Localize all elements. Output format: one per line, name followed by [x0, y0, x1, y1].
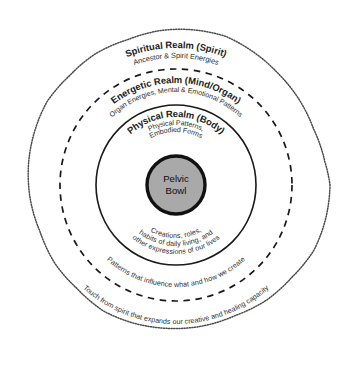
energetic-lower-caption: Patterns that influence what and how we … — [105, 255, 246, 289]
diagram-container: Pelvic Bowl Spiritual Realm (Spirit) Anc… — [0, 0, 352, 370]
energetic-lower-caption-text: Patterns that influence what and how we … — [105, 255, 246, 289]
core-label-line2: Bowl — [166, 185, 187, 196]
spiritual-lower-caption-text: Touch from spirit that expands our creat… — [82, 283, 271, 325]
core-label-line1: Pelvic — [163, 173, 189, 184]
spiritual-lower-caption: Touch from spirit that expands our creat… — [82, 283, 271, 325]
realms-diagram: Pelvic Bowl Spiritual Realm (Spirit) Anc… — [0, 0, 352, 370]
